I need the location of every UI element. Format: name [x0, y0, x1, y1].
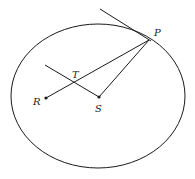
label-r: R — [32, 96, 41, 107]
label-t: T — [72, 69, 80, 80]
tangent-line — [100, 9, 151, 41]
label-s: S — [95, 103, 102, 114]
diagram-svg: PRST — [0, 0, 195, 179]
ellipse-diagram: PRST — [0, 0, 195, 179]
segment-SP — [99, 40, 149, 97]
segments — [45, 9, 151, 98]
label-p: P — [153, 27, 161, 38]
points — [44, 95, 100, 99]
segment-RP — [46, 40, 149, 98]
point-r-dot — [44, 96, 47, 99]
labels: PRST — [32, 27, 161, 114]
point-s-dot — [97, 95, 100, 98]
